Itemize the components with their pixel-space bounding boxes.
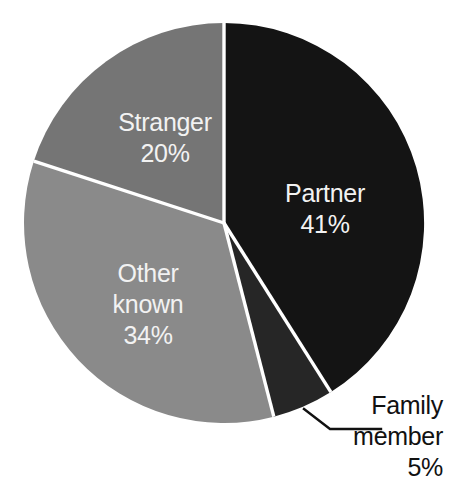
pie-label-other-known-line1: Other bbox=[117, 259, 178, 287]
pie-label-other-known-value: 34% bbox=[123, 321, 172, 349]
pie-chart-figure: Stranger 20% Partner 41% Other known 34%… bbox=[0, 0, 456, 496]
pie-label-family-member-line2: member bbox=[353, 422, 443, 450]
pie-label-family-member-line1: Family bbox=[371, 391, 444, 419]
pie-label-stranger-value: 20% bbox=[140, 139, 189, 167]
pie-label-partner-name: Partner bbox=[285, 179, 365, 207]
pie-label-family-member-value: 5% bbox=[407, 453, 443, 481]
pie-label-partner-value: 41% bbox=[300, 210, 349, 238]
pie-chart-canvas: Stranger 20% Partner 41% Other known 34%… bbox=[0, 0, 456, 496]
pie-label-stranger-name: Stranger bbox=[118, 108, 212, 136]
pie-label-other-known-line2: known bbox=[113, 290, 184, 318]
